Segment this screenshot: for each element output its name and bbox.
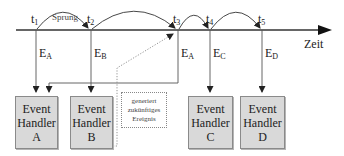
event-label-a2: EA [181, 47, 194, 63]
event-label-b: EB [94, 47, 107, 63]
handler-d-line3: D [258, 130, 267, 144]
handler-c-line2: Handler [191, 116, 230, 130]
generates-future-event-note: generiert zukünftiges Ereignis [121, 92, 167, 128]
event-label-d: ED [265, 47, 278, 63]
note-line1: generiert [132, 97, 157, 106]
event-handler-c: Event Handler C [188, 96, 233, 149]
handler-c-line3: C [206, 130, 214, 144]
handler-c-line1: Event [197, 102, 225, 116]
time-label-t5: t5 [258, 13, 265, 29]
time-label-t1: t1 [31, 13, 38, 29]
time-label-t3: t3 [173, 13, 180, 29]
handler-a-line3: A [32, 130, 41, 144]
handler-b-line3: B [87, 130, 95, 144]
handler-b-line2: Handler [72, 116, 111, 130]
generation-path [113, 34, 173, 146]
time-label-t4: t4 [206, 13, 213, 29]
event-handler-a: Event Handler A [15, 96, 58, 149]
note-line2: zukünftiges [128, 106, 161, 115]
event-handler-d: Event Handler D [240, 96, 285, 149]
time-label-t2: t2 [87, 13, 94, 29]
note-line3: Ereignis [132, 115, 155, 124]
handler-b-line1: Event [78, 102, 106, 116]
event-label-c: EC [213, 47, 226, 63]
handler-a-line1: Event [23, 102, 51, 116]
axis-label: Zeit [304, 37, 323, 52]
axis-arrow-icon [318, 25, 332, 35]
handler-a-line2: Handler [17, 116, 56, 130]
event-lines [36, 30, 262, 92]
event-handler-b: Event Handler B [70, 96, 113, 149]
jump-label: Sprung [52, 12, 78, 22]
event-label-a1: EA [39, 47, 52, 63]
handler-d-line2: Handler [243, 116, 282, 130]
handler-d-line1: Event [249, 102, 277, 116]
